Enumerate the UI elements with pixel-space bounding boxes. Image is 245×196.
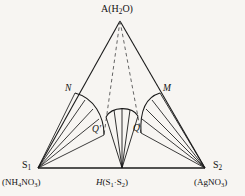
triangle-outline	[38, 21, 205, 168]
tie-line-s1-4	[38, 119, 99, 168]
tie-line-s1-5	[38, 135, 104, 168]
tie-line-s2-4	[142, 119, 205, 168]
ternary-phase-diagram-figure: A(H2O) S1 (NH4NO3) S2 (AgNO3) H(S1·S2) N…	[0, 0, 245, 196]
tie-line-h-2	[114, 110, 122, 168]
nh4no3-prefix: (NH	[2, 177, 18, 187]
tie-line-h-4	[122, 110, 130, 168]
tie-line-h-1	[106, 117, 122, 168]
tie-line-s2-1	[160, 93, 205, 168]
tie-line-fan-h	[106, 108, 138, 168]
h-close: )	[125, 177, 128, 187]
tie-line-fan-s2	[141, 93, 205, 168]
nh4no3-suffix: )	[37, 177, 40, 187]
q-prime-mark: ′	[99, 124, 101, 134]
apex-label-a-h2o: A(H2O)	[101, 4, 133, 16]
point-label-m: M	[163, 84, 171, 94]
vertex-formula-nh4no3: (NH4NO3)	[2, 178, 40, 188]
agno3-prefix: (AgNO	[194, 177, 221, 187]
dashed-apex-lines	[104, 21, 141, 135]
q-prime-letter: Q	[92, 124, 99, 134]
tie-line-s2-2	[152, 100, 205, 168]
tie-line-s1-2	[38, 100, 85, 168]
diagram-canvas	[0, 0, 245, 196]
point-label-q-prime: Q′	[92, 125, 101, 135]
h-open: (S	[103, 177, 111, 187]
point-label-q: Q	[133, 124, 140, 134]
s2-subscript: 2	[219, 164, 223, 172]
s1-subscript: 1	[28, 164, 32, 172]
vertex-formula-agno3: (AgNO3)	[194, 178, 227, 188]
point-label-n: N	[65, 84, 71, 94]
solubility-arcs	[75, 93, 160, 135]
vertex-label-s1: S1	[22, 160, 31, 172]
apex-label-main: A(H	[101, 3, 119, 14]
tie-line-s1-1	[38, 93, 75, 168]
apex-label-tail: O)	[122, 3, 133, 14]
vertex-label-s2: S2	[213, 160, 222, 172]
nh4no3-mid: NO	[21, 177, 34, 187]
agno3-suffix: )	[224, 177, 227, 187]
vertex-label-h-s1-s2: H(S1·S2)	[96, 178, 128, 188]
